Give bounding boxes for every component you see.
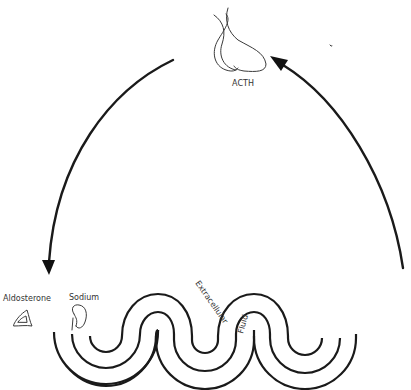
extracellular-label: Extracellular bbox=[193, 279, 230, 326]
feedback-loop-diagram: ACTH Aldosterone Sodium Extracellular Fl… bbox=[0, 0, 411, 390]
arrow-pituitary-to-aldosterone bbox=[42, 60, 173, 275]
aldosterone-label: Aldosterone bbox=[3, 294, 51, 303]
arrow-ecf-to-acth bbox=[270, 56, 403, 268]
kidney-icon bbox=[72, 305, 86, 330]
sodium-label: Sodium bbox=[69, 293, 99, 302]
arrowhead-up-left-icon bbox=[270, 56, 288, 71]
acth-label: ACTH bbox=[232, 79, 254, 88]
adrenal-gland-icon bbox=[14, 310, 32, 326]
arrowhead-down-icon bbox=[42, 260, 55, 275]
fluid-label: Fluid bbox=[236, 314, 250, 335]
extracellular-fluid-waves bbox=[54, 294, 356, 389]
print-speck bbox=[330, 45, 332, 46]
pituitary-gland-icon bbox=[214, 8, 266, 71]
